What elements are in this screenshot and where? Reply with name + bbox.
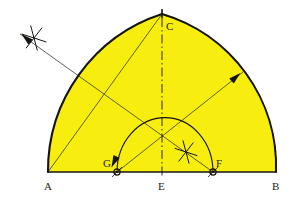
- diagram-canvas: AGEFBC: [0, 0, 294, 201]
- point-label-c: C: [166, 20, 173, 32]
- point-label-a: A: [44, 180, 52, 192]
- point-label-g: G: [103, 157, 111, 169]
- point-label-e: E: [158, 180, 165, 192]
- point-label-f: F: [216, 157, 222, 169]
- point-label-b: B: [272, 180, 279, 192]
- pointed-arch-construction-figure: AGEFBC: [0, 0, 294, 201]
